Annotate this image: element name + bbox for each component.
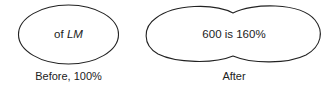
after-caption: After	[147, 70, 321, 82]
before-inner-italic: LM	[67, 28, 83, 40]
before-inner-label: of LM	[18, 28, 119, 40]
after-inner-label: 600 is 160%	[147, 28, 321, 40]
before-inner-text: of	[54, 28, 67, 40]
before-caption: Before, 100%	[18, 70, 119, 82]
